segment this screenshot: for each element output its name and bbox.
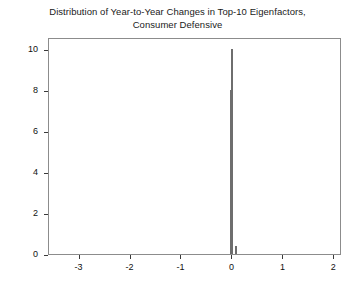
x-tick-mark — [282, 255, 283, 259]
x-tick-mark — [130, 255, 131, 259]
x-tick-label: 2 — [320, 262, 346, 272]
y-tick-mark — [44, 132, 48, 133]
y-tick-label: 0 — [12, 249, 38, 259]
histogram-figure: Distribution of Year-to-Year Changes in … — [0, 0, 355, 290]
histogram-bar — [231, 49, 233, 254]
x-tick-label: -3 — [66, 262, 92, 272]
y-tick-label: 4 — [12, 167, 38, 177]
chart-title-line-2: Consumer Defensive — [0, 18, 355, 31]
y-tick-label: 6 — [12, 126, 38, 136]
plot-area — [48, 38, 341, 255]
chart-title: Distribution of Year-to-Year Changes in … — [0, 5, 355, 31]
y-tick-mark — [44, 91, 48, 92]
x-tick-label: -1 — [167, 262, 193, 272]
chart-title-line-1: Distribution of Year-to-Year Changes in … — [0, 5, 355, 18]
x-tick-label: 0 — [218, 262, 244, 272]
y-tick-mark — [44, 214, 48, 215]
y-tick-label: 10 — [12, 44, 38, 54]
y-tick-mark — [44, 173, 48, 174]
y-tick-label: 2 — [12, 208, 38, 218]
x-tick-label: -2 — [117, 262, 143, 272]
y-tick-mark — [44, 50, 48, 51]
histogram-bar — [235, 246, 237, 254]
x-tick-label: 1 — [269, 262, 295, 272]
x-tick-mark — [180, 255, 181, 259]
x-tick-mark — [231, 255, 232, 259]
x-tick-mark — [333, 255, 334, 259]
plot-inner — [49, 39, 340, 254]
x-tick-mark — [79, 255, 80, 259]
y-tick-label: 8 — [12, 85, 38, 95]
y-tick-mark — [44, 255, 48, 256]
